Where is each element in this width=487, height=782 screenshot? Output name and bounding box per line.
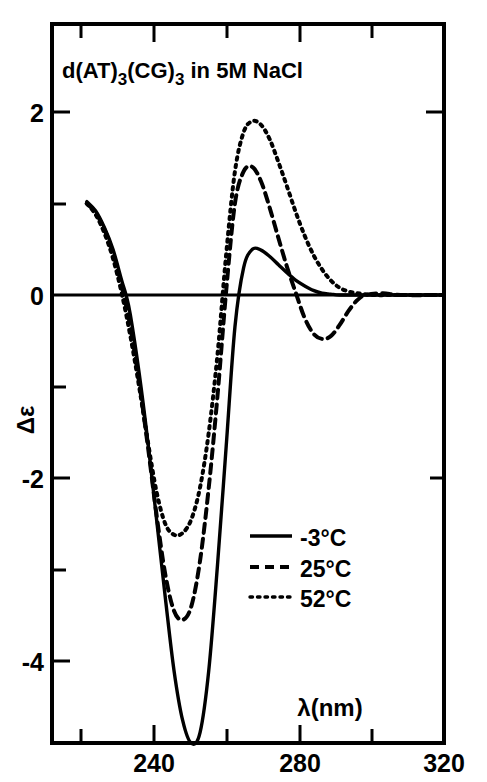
y-tick-label-2: 2 bbox=[30, 99, 44, 127]
curve-group bbox=[87, 121, 444, 744]
title-subscript-1: 3 bbox=[118, 70, 127, 89]
y-axis-label: Δε bbox=[12, 406, 39, 435]
legend: -3°C 25°C 52°C bbox=[250, 525, 351, 612]
title-part-2: (CG) bbox=[127, 58, 175, 83]
x-axis-label: λ(nm) bbox=[297, 694, 362, 721]
curve-52c bbox=[87, 121, 444, 536]
x-axis-ticks bbox=[81, 24, 372, 743]
x-tick-label-280: 280 bbox=[279, 749, 321, 777]
plot-title: d(AT)3(CG)3 in 5M NaCl bbox=[62, 58, 303, 89]
title-part-3: in 5M NaCl bbox=[184, 58, 303, 83]
y-tick-label-neg2: -2 bbox=[22, 465, 44, 493]
cd-spectrum-plot: 240 280 320 2 0 -2 -4 Δε λ(nm) d(AT)3(CG… bbox=[0, 0, 487, 782]
title-part-1: d(AT) bbox=[62, 58, 118, 83]
plot-frame-rect bbox=[52, 24, 444, 743]
figure-container: 240 280 320 2 0 -2 -4 Δε λ(nm) d(AT)3(CG… bbox=[0, 0, 487, 782]
x-tick-label-320: 320 bbox=[423, 749, 465, 777]
curve-minus3c bbox=[87, 202, 444, 745]
legend-label-minus3c: -3°C bbox=[300, 525, 346, 551]
title-subscript-2: 3 bbox=[175, 70, 184, 89]
y-axis-ticks bbox=[52, 112, 444, 661]
legend-label-25c: 25°C bbox=[300, 556, 351, 582]
x-tick-label-240: 240 bbox=[133, 749, 175, 777]
legend-label-52c: 52°C bbox=[300, 586, 351, 612]
y-tick-label-0: 0 bbox=[30, 282, 44, 310]
plot-frame bbox=[52, 24, 444, 743]
y-tick-label-neg4: -4 bbox=[22, 648, 44, 676]
